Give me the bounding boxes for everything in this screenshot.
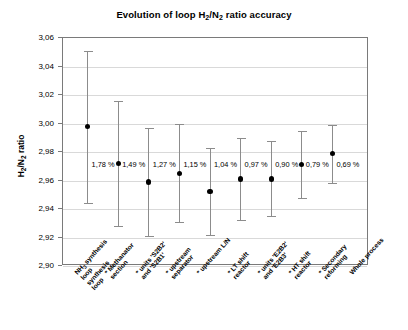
y-tick-label: 2,96: [38, 175, 54, 184]
chart-title-post: ratio accuracy: [223, 9, 292, 20]
accuracy-percent-label: 1,78 %: [92, 160, 115, 169]
y-tick-label: 3,02: [38, 90, 54, 99]
data-point-marker[interactable]: [330, 151, 335, 156]
gridlines: [63, 38, 367, 264]
accuracy-percent-label: 0,90 %: [275, 160, 298, 169]
data-point-marker[interactable]: [238, 176, 243, 181]
gridline: [63, 238, 367, 239]
error-bar-cap-lower: [328, 183, 337, 184]
y-tick-label: 3,04: [38, 61, 54, 70]
accuracy-percent-label: 1,04 %: [214, 160, 237, 169]
accuracy-percent-label: 1,27 %: [153, 160, 176, 169]
gridline: [63, 95, 367, 96]
data-point-marker[interactable]: [177, 171, 182, 176]
error-bar-cap-upper: [206, 148, 215, 149]
error-bar-cap-lower: [175, 222, 184, 223]
y-tick-label: 3,00: [38, 118, 54, 127]
accuracy-percent-label: 0,79 %: [306, 160, 329, 169]
y-tick-label: 3,06: [38, 33, 54, 42]
error-bar-cap-lower: [145, 236, 154, 237]
gridline: [63, 124, 367, 125]
accuracy-percent-label: 1,49 %: [122, 160, 145, 169]
y-axis-ticks: 3,063,043,023,002,982,962,942,922,90: [0, 37, 62, 265]
data-point-marker[interactable]: [116, 161, 121, 166]
chart-title-mid: /N: [209, 9, 219, 20]
chart-title: Evolution of loop H2/N2 ratio accuracy: [0, 9, 408, 20]
chart-title-sub2: 2: [219, 14, 223, 21]
data-point-marker[interactable]: [146, 179, 151, 184]
accuracy-percent-label: 1,15 %: [183, 160, 206, 169]
error-bar-cap-upper: [237, 138, 246, 139]
accuracy-percent-label: 0,69 %: [336, 160, 359, 169]
gridline: [63, 67, 367, 68]
error-bar-cap-upper: [328, 125, 337, 126]
error-bar-cap-upper: [84, 51, 93, 52]
chart-container: Evolution of loop H2/N2 ratio accuracy H…: [0, 0, 408, 330]
gridline: [63, 181, 367, 182]
error-bar-cap-upper: [145, 128, 154, 129]
error-bar-cap-lower: [298, 198, 307, 199]
chart-title-pre: Evolution of loop H: [116, 9, 205, 20]
error-bar-cap-lower: [84, 203, 93, 204]
error-bar-cap-lower: [114, 226, 123, 227]
error-bar-cap-upper: [114, 101, 123, 102]
error-bar-cap-upper: [267, 141, 276, 142]
error-bar-cap-upper: [175, 124, 184, 125]
error-bar-cap-upper: [298, 131, 307, 132]
plot-area: 1,78 %1,49 %1,27 %1,15 %1,04 %0,97 %0,90…: [62, 37, 368, 265]
chart-title-sub1: 2: [205, 14, 209, 21]
y-tick-label: 2,94: [38, 204, 54, 213]
accuracy-percent-label: 0,97 %: [245, 160, 268, 169]
data-point-marker[interactable]: [269, 176, 274, 181]
x-axis-labels: NH3 synthesisloop synthesisloop* Methana…: [0, 265, 408, 330]
gridline: [63, 152, 367, 153]
error-bar-cap-lower: [267, 216, 276, 217]
y-tick-label: 2,92: [38, 232, 54, 241]
gridline: [63, 209, 367, 210]
y-tick-label: 2,98: [38, 147, 54, 156]
error-bar-cap-lower: [206, 235, 215, 236]
error-bar-cap-lower: [237, 220, 246, 221]
